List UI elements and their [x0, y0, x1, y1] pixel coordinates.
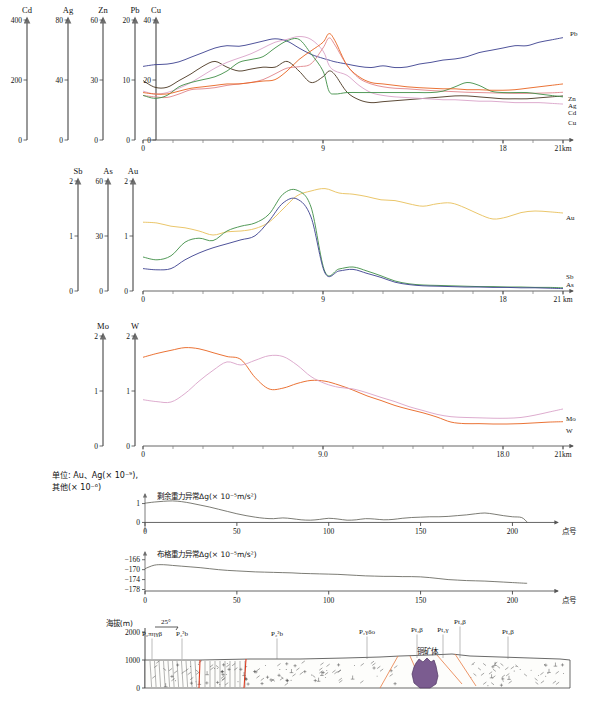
svg-text:0: 0 — [136, 684, 140, 693]
series-line-Zn — [143, 61, 563, 102]
chart-panel-bouguer-gravity: −166−170−174−178布格重力异常Δg(× 10⁻⁵m/s²)0501… — [0, 548, 601, 610]
panel4-title: 剩余重力异常Δg(× 10⁻⁵m/s²) — [157, 491, 257, 501]
axis-Sb: Sb012 — [69, 166, 82, 296]
series-line-Cd — [143, 38, 563, 98]
panel3-plot — [143, 348, 563, 424]
rock-body — [145, 654, 570, 688]
geological-cross-section: 200010000海拔(m)铜矿体25°P₂πηγβP₂²bP₂²bP₂γδoP… — [0, 610, 601, 701]
svg-text:2000: 2000 — [125, 628, 140, 637]
svg-text:30: 30 — [91, 76, 99, 85]
svg-text:0: 0 — [141, 450, 145, 459]
svg-text:1: 1 — [136, 499, 140, 508]
axis-title-As: As — [103, 166, 112, 176]
axis-title-Cu: Cu — [151, 5, 162, 15]
series-line-Ag — [143, 37, 563, 105]
axis-title-Sb: Sb — [74, 166, 83, 176]
panel4-xlabel: 点号 — [562, 527, 576, 536]
svg-text:400: 400 — [11, 16, 23, 25]
x-axis: 09.018.021km — [141, 446, 573, 459]
axis-Ag: Ag04080 — [56, 5, 74, 145]
svg-text:30: 30 — [96, 232, 104, 241]
svg-text:−178: −178 — [125, 585, 141, 594]
svg-text:0: 0 — [141, 295, 145, 304]
svg-text:0: 0 — [136, 518, 140, 527]
panel1-svg: Cd0200400Ag04080Zn03060Pb01020Cu02040091… — [0, 0, 601, 162]
svg-text:0: 0 — [18, 136, 22, 145]
axis-Pb: Pb01020 — [123, 5, 140, 145]
svg-text:1000: 1000 — [125, 656, 140, 665]
series-line-Sb — [143, 189, 563, 287]
svg-text:200: 200 — [11, 76, 23, 85]
x-axis: 050100150200点号 — [143, 522, 576, 536]
svg-text:100: 100 — [323, 527, 335, 536]
svg-text:18.0: 18.0 — [496, 450, 509, 459]
svg-text:150: 150 — [415, 596, 427, 605]
axis-W: W012 — [126, 321, 139, 451]
svg-text:60: 60 — [91, 16, 99, 25]
svg-text:0: 0 — [69, 287, 73, 296]
x-axis: 091821 km — [141, 291, 573, 304]
panel1-plot — [143, 34, 563, 104]
series-label-Cu: Cu — [568, 119, 577, 127]
svg-text:200: 200 — [507, 527, 519, 536]
svg-text:2: 2 — [94, 332, 98, 341]
chart-panel-metals-3: Mo012W01209.018.021kmMoW — [0, 318, 601, 468]
svg-text:0: 0 — [143, 596, 147, 605]
svg-text:80: 80 — [56, 16, 64, 25]
unit-label: Pt₂γ — [437, 626, 448, 634]
svg-text:50: 50 — [233, 596, 241, 605]
panel5-xlabel: 点号 — [562, 596, 576, 605]
panel4-svg: 01剩余重力异常Δg(× 10⁻⁵m/s²)050100150200点号 — [0, 490, 601, 548]
series-line-residual — [145, 501, 527, 522]
axis-title-Ag: Ag — [63, 5, 74, 15]
axis-title-Cd: Cd — [22, 5, 33, 15]
svg-text:0: 0 — [126, 442, 130, 451]
svg-text:0: 0 — [59, 136, 63, 145]
svg-text:−166: −166 — [125, 555, 141, 564]
series-line-W — [143, 348, 563, 424]
series-line-Pb — [143, 38, 563, 68]
axis-title-Au: Au — [128, 166, 139, 176]
cross-section-svg: 200010000海拔(m)铜矿体25°P₂πηγβP₂²bP₂²bP₂γδoP… — [0, 610, 601, 701]
svg-text:40: 40 — [144, 16, 152, 25]
unit-label: P₂πηγβ — [142, 630, 163, 638]
svg-text:21km: 21km — [554, 450, 571, 459]
svg-text:0: 0 — [124, 287, 128, 296]
chart-panel-metals-1: Cd0200400Ag04080Zn03060Pb01020Cu02040091… — [0, 0, 601, 162]
axis-title-W: W — [131, 321, 139, 331]
axis-Cd: Cd0200400 — [11, 5, 33, 145]
panel2-svg: Sb012As03060Au012091821 kmAuSbAs — [0, 163, 601, 313]
panel5-svg: −166−170−174−178布格重力异常Δg(× 10⁻⁵m/s²)0501… — [0, 548, 601, 610]
panel3-svg: Mo012W01209.018.021kmMoW — [0, 318, 601, 468]
axis-title-Zn: Zn — [98, 5, 108, 15]
axis-Zn: Zn03060 — [91, 5, 109, 145]
axis-Cu: Cu02040 — [144, 5, 162, 145]
x-axis: 050100150200点号 — [143, 591, 576, 605]
units-caption-line1: 单位: Au、Ag(× 10⁻⁹), — [52, 470, 138, 482]
elevation-axis-label: 海拔(m) — [106, 618, 133, 628]
svg-text:1: 1 — [94, 387, 98, 396]
svg-text:0: 0 — [94, 442, 98, 451]
chart-panel-residual-gravity: 01剩余重力异常Δg(× 10⁻⁵m/s²)050100150200点号 — [0, 490, 601, 548]
panel2-plot — [143, 189, 563, 289]
svg-text:20: 20 — [123, 16, 131, 25]
svg-text:0: 0 — [141, 144, 145, 153]
svg-text:0: 0 — [126, 136, 130, 145]
axis-Mo: Mo012 — [94, 321, 109, 451]
svg-text:21km: 21km — [554, 144, 571, 153]
axis-Au: Au012 — [124, 166, 139, 296]
svg-text:0: 0 — [143, 527, 147, 536]
unit-label: Pt₃β — [454, 618, 466, 626]
series-line-As — [143, 198, 563, 288]
unit-labels: P₂πηγβP₂²bP₂²bP₂γδoPt₃βPt₂γPt₃βPt₂β — [142, 618, 514, 659]
series-line-Au — [143, 189, 563, 235]
series-label-As: As — [566, 281, 574, 289]
series-label-Pb: Pb — [570, 30, 578, 38]
svg-text:18: 18 — [499, 144, 507, 153]
svg-text:9.0: 9.0 — [318, 450, 328, 459]
svg-text:9: 9 — [321, 144, 325, 153]
panel5-title: 布格重力异常Δg(× 10⁻⁵m/s²) — [157, 549, 257, 559]
svg-text:0: 0 — [94, 136, 98, 145]
svg-text:9: 9 — [321, 295, 325, 304]
unit-label: Pt₂β — [502, 628, 514, 636]
